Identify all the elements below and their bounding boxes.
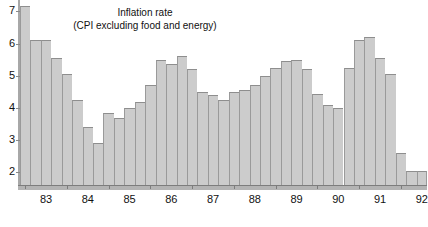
bar xyxy=(333,108,343,187)
bar xyxy=(344,68,354,187)
bar xyxy=(83,127,93,187)
x-axis-tick-label: 85 xyxy=(123,193,135,205)
bar xyxy=(124,108,134,187)
bar xyxy=(364,37,374,187)
bar xyxy=(187,69,197,187)
x-axis-tick-label: 92 xyxy=(416,193,428,205)
bar xyxy=(114,118,124,187)
bar xyxy=(385,74,395,187)
bar xyxy=(103,113,113,187)
y-axis-tick-label: 2 xyxy=(0,166,15,177)
bar xyxy=(62,74,72,187)
bar xyxy=(135,102,145,187)
plot-area xyxy=(20,0,427,187)
x-axis-tick-label: 89 xyxy=(290,193,302,205)
bar xyxy=(93,143,103,187)
x-axis-tick-label: 84 xyxy=(82,193,94,205)
x-axis-tick xyxy=(109,185,110,189)
bar xyxy=(312,94,322,188)
x-axis-tick-label: 88 xyxy=(249,193,261,205)
x-axis-tick xyxy=(67,185,68,189)
x-axis-tick-label: 86 xyxy=(165,193,177,205)
bar xyxy=(166,64,176,187)
y-axis-tick-label: 4 xyxy=(0,102,15,113)
x-axis-tick-label: 87 xyxy=(207,193,219,205)
x-axis-tick xyxy=(401,185,402,189)
x-axis-tick xyxy=(25,185,26,189)
bar xyxy=(197,92,207,187)
bar xyxy=(396,153,406,187)
bar xyxy=(30,40,40,187)
bar xyxy=(270,68,280,187)
x-axis-tick xyxy=(150,185,151,189)
x-axis-tick xyxy=(234,185,235,189)
bar xyxy=(291,60,301,187)
x-axis-tick xyxy=(317,185,318,189)
x-axis-tick-label: 90 xyxy=(332,193,344,205)
bar xyxy=(260,76,270,187)
bar xyxy=(239,90,249,187)
bar xyxy=(323,105,333,187)
bar xyxy=(218,100,228,187)
y-axis-tick-label: 3 xyxy=(0,134,15,145)
x-axis-tick-label: 83 xyxy=(40,193,52,205)
y-axis-tick-label: 5 xyxy=(0,70,15,81)
x-axis-baseline xyxy=(18,185,427,190)
x-axis-tick xyxy=(192,185,193,189)
bar xyxy=(208,95,218,187)
x-axis-tick xyxy=(359,185,360,189)
bar xyxy=(250,85,260,187)
x-axis-tick-label: 91 xyxy=(374,193,386,205)
bar xyxy=(375,58,385,187)
bar xyxy=(302,69,312,187)
bar xyxy=(354,40,364,187)
bar xyxy=(41,40,51,187)
bar xyxy=(229,92,239,187)
y-axis-tick-label: 6 xyxy=(0,38,15,49)
bar xyxy=(177,56,187,187)
bar xyxy=(145,85,155,187)
x-axis-tick xyxy=(276,185,277,189)
bar xyxy=(281,61,291,187)
y-axis-tick-label: 7 xyxy=(0,5,15,16)
bar xyxy=(72,100,82,187)
bar xyxy=(156,60,166,187)
bar xyxy=(20,6,30,187)
bar xyxy=(51,58,61,187)
